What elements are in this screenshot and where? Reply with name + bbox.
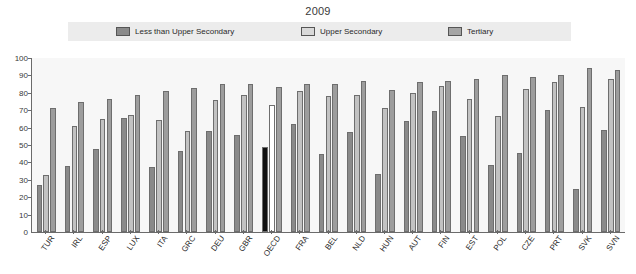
bar[interactable] [65,166,71,232]
y-axis-tick-label: 80 [4,88,28,97]
bar[interactable] [552,82,558,233]
bar[interactable] [276,87,282,232]
y-axis-tick-label: 60 [4,123,28,132]
legend-item[interactable]: Tertiary [448,25,493,38]
bar[interactable] [467,99,473,232]
bar-group [230,58,258,232]
plot-area [31,58,625,233]
y-axis-tick-label: 50 [4,141,28,150]
chart-container: 2009 Less than Upper SecondaryUpper Seco… [0,0,636,274]
bar[interactable] [100,119,106,232]
legend-item[interactable]: Less than Upper Secondary [116,25,234,38]
bar[interactable] [389,90,395,232]
x-axis-tick-mark [525,230,526,234]
y-axis-tick-label: 30 [4,175,28,184]
bar[interactable] [523,89,529,232]
bar[interactable] [432,111,438,232]
bar[interactable] [72,126,78,232]
bar[interactable] [354,95,360,232]
bar[interactable] [121,118,127,232]
x-axis-tick-label: CZE [520,234,537,252]
bar[interactable] [601,130,607,232]
bar[interactable] [615,70,621,232]
bar[interactable] [107,99,113,232]
bar[interactable] [50,108,56,232]
x-axis-tick-label: FIN [437,234,452,250]
bar[interactable] [530,77,536,232]
bar[interactable] [382,108,388,232]
x-axis-tick-mark [356,230,357,234]
bar-group [371,58,399,232]
bar[interactable] [43,175,49,232]
bar[interactable] [417,82,423,232]
bar-group [201,58,229,232]
bar[interactable] [128,115,134,232]
x-axis-tick-label: TUR [40,234,57,253]
bar[interactable] [213,100,219,232]
bar[interactable] [410,93,416,232]
bar[interactable] [495,116,501,232]
x-axis-tick-label: ESP [96,234,113,252]
bar-group [258,58,286,232]
legend-item[interactable]: Upper Secondary [301,25,382,38]
x-axis-tick-label: GRC [180,234,198,254]
x-axis-tick-label: SVN [604,234,621,253]
bar[interactable] [304,84,310,232]
legend-swatch-icon [448,27,462,36]
y-axis-tick-label: 20 [4,193,28,202]
x-axis: TURIRLESPLUXITAGRCDEUGBROECDFRABELNLDHUN… [31,234,624,274]
bars-layer [32,58,625,232]
bar[interactable] [375,174,381,232]
bar[interactable] [269,105,275,232]
bar[interactable] [93,149,99,232]
bar[interactable] [191,88,197,232]
bar-group [569,58,597,232]
bar[interactable] [608,79,614,232]
bar[interactable] [580,107,586,232]
bar[interactable] [206,131,212,232]
bar[interactable] [241,95,247,232]
bar[interactable] [149,167,155,232]
bar-group [117,58,145,232]
bar[interactable] [347,132,353,232]
bar[interactable] [297,91,303,232]
bar[interactable] [332,84,338,232]
bar[interactable] [319,154,325,232]
bar-group [286,58,314,232]
chart-legend: Less than Upper SecondaryUpper Secondary… [68,22,571,41]
bar[interactable] [439,86,445,232]
bar[interactable] [156,120,162,232]
bar[interactable] [517,153,523,232]
bar-group [173,58,201,232]
bar[interactable] [135,95,141,232]
bar[interactable] [460,136,466,232]
bar[interactable] [558,75,564,232]
bar[interactable] [474,79,480,232]
bar[interactable] [404,121,410,232]
bar[interactable] [587,68,593,232]
x-axis-tick-mark [610,230,611,234]
bar[interactable] [326,96,332,232]
bar[interactable] [178,151,184,232]
bar[interactable] [291,124,297,232]
bar[interactable] [78,102,84,232]
bar[interactable] [185,131,191,232]
bar-group [60,58,88,232]
x-axis-tick-mark [215,230,216,234]
x-axis-tick-mark [102,230,103,234]
bar[interactable] [262,147,268,232]
x-axis-tick-mark [299,230,300,234]
bar[interactable] [37,185,43,232]
bar-group [343,58,371,232]
bar[interactable] [234,135,240,232]
bar[interactable] [545,110,551,232]
x-axis-tick-mark [271,230,272,234]
bar[interactable] [445,81,451,232]
bar[interactable] [220,84,226,232]
bar[interactable] [488,165,494,232]
bar[interactable] [163,91,169,232]
bar[interactable] [502,75,508,232]
bar[interactable] [573,189,579,232]
bar[interactable] [248,84,254,232]
bar[interactable] [361,81,367,232]
